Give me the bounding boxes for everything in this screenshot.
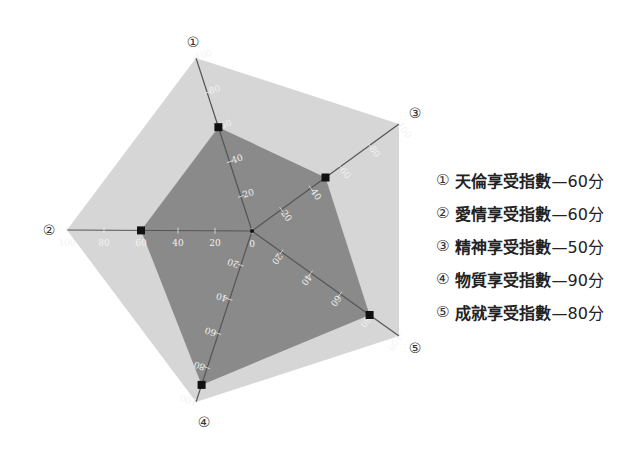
svg-text:80: 80 [98,238,110,248]
legend-item: ④ 物質享受指數 —90分 [436,262,604,295]
legend-item: ③ 精神享受指數 —50分 [436,229,604,262]
legend-item: ⑤ 成就享受指數 —80分 [436,295,604,328]
svg-text:0: 0 [249,239,255,249]
svg-text:⑤: ⑤ [409,340,422,356]
legend-label: 精神享受指數 [455,234,551,258]
legend-value: —80分 [551,300,603,324]
legend-value: —60分 [551,168,603,192]
legend-number: ② [436,204,449,222]
svg-text:②: ② [43,222,56,238]
svg-text:40: 40 [172,238,184,248]
legend-number: ① [436,171,449,189]
legend-value: —90分 [551,267,603,291]
legend-value: —60分 [551,201,603,225]
legend-number: ④ [436,270,449,288]
svg-text:①: ① [187,34,200,50]
legend-value: —50分 [551,234,603,258]
legend-label: 成就享受指數 [455,300,551,324]
svg-text:60: 60 [135,238,147,248]
legend-label: 天倫享受指數 [455,168,551,192]
svg-text:100: 100 [58,238,75,248]
legend-item: ② 愛情享受指數 —60分 [436,196,604,229]
svg-text:③: ③ [409,105,422,121]
legend-item: ① 天倫享受指數 —60分 [436,163,604,196]
legend-label: 物質享受指數 [455,267,551,291]
svg-text:④: ④ [198,414,211,430]
legend-number: ⑤ [436,303,449,321]
legend-number: ③ [436,237,449,255]
svg-text:20: 20 [209,238,221,248]
legend-label: 愛情享受指數 [455,201,551,225]
legend: ① 天倫享受指數 —60分 ② 愛情享受指數 —60分 ③ 精神享受指數 —50… [436,163,604,328]
